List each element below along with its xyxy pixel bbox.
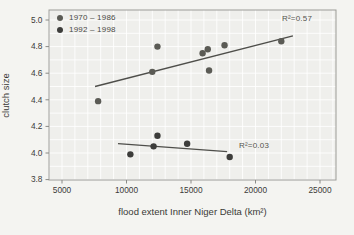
r2-label-1992-1998: R²=0.03 [239, 141, 269, 150]
y-axis-title: clutch size [0, 26, 11, 166]
legend-item-1970-1986: 1970 – 1986 [57, 13, 116, 22]
y-tick-label: 4.6 [31, 68, 43, 78]
y-tick-label: 4.8 [31, 41, 43, 51]
clutch-size-vs-flood-extent-chart: 5000100001500020000250003.84.04.24.44.64… [0, 0, 354, 235]
data-point-series-2 [227, 154, 233, 160]
data-point-series-1 [221, 42, 227, 48]
x-axis-title: flood extent Inner Niger Delta (km²) [49, 206, 336, 217]
data-point-series-2 [154, 133, 160, 139]
x-tick-label: 15000 [179, 185, 202, 195]
data-point-series-1 [199, 50, 205, 56]
data-point-series-1 [154, 43, 160, 49]
x-tick-label: 20000 [244, 185, 267, 195]
scatter-plot-canvas: 5000100001500020000250003.84.04.24.44.64… [0, 0, 354, 235]
data-point-series-2 [184, 140, 190, 146]
y-tick-label: 5.0 [31, 15, 43, 25]
data-point-series-1 [149, 69, 155, 75]
data-point-series-1 [278, 38, 284, 44]
y-tick-label: 4.0 [31, 148, 43, 158]
y-tick-label: 3.8 [31, 174, 43, 184]
x-tick-label: 25000 [308, 185, 331, 195]
data-point-series-1 [206, 67, 212, 73]
legend-marker-1992-1998-icon [57, 27, 63, 33]
legend-item-1992-1998: 1992 – 1998 [57, 25, 116, 34]
legend-marker-1970-1986-icon [57, 15, 63, 21]
data-point-series-1 [95, 98, 101, 104]
legend-label-1970-1986: 1970 – 1986 [69, 13, 116, 22]
data-point-series-2 [127, 151, 133, 157]
y-tick-label: 4.2 [31, 121, 43, 131]
legend: 1970 – 1986 1992 – 1998 [57, 13, 116, 34]
x-tick-label: 10000 [115, 185, 138, 195]
plot-panel [49, 10, 336, 180]
data-point-series-2 [150, 143, 156, 149]
y-tick-label: 4.4 [31, 95, 43, 105]
data-point-series-1 [205, 46, 211, 52]
x-tick-label: 5000 [53, 185, 72, 195]
r2-label-1970-1986: R²=0.57 [282, 14, 312, 23]
legend-label-1992-1998: 1992 – 1998 [69, 25, 116, 34]
